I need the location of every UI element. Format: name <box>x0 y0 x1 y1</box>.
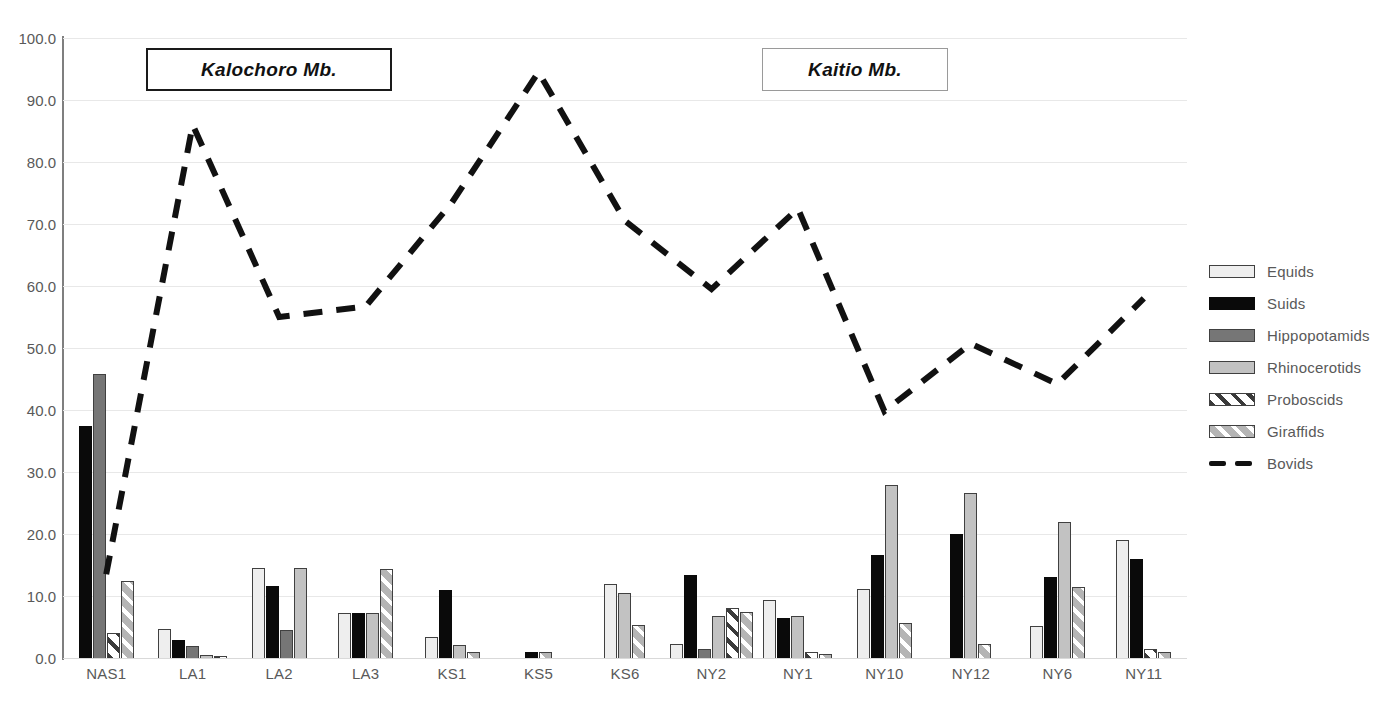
bar-giraffids[interactable] <box>539 652 552 658</box>
y-axis-tick-label: 80.0 <box>0 154 56 171</box>
y-axis-tick-label: 0.0 <box>0 650 56 667</box>
gridline <box>63 658 1187 659</box>
bar-equids[interactable] <box>425 637 438 658</box>
x-axis-tick-label-nas1: NAS1 <box>86 665 126 682</box>
bar-group <box>322 38 408 658</box>
bar-rhinocerotids[interactable] <box>712 616 725 658</box>
legend-swatch-proboscids-icon <box>1209 393 1255 406</box>
bar-equids[interactable] <box>338 613 351 658</box>
bar-suids[interactable] <box>871 555 884 658</box>
x-axis-tick-label-ks6: KS6 <box>611 665 640 682</box>
bar-proboscids[interactable] <box>107 633 120 658</box>
bar-equids[interactable] <box>1030 626 1043 658</box>
legend-item-equids[interactable]: Equids <box>1209 255 1389 287</box>
member-box-kalochoro: Kalochoro Mb. <box>146 48 392 91</box>
x-axis-tick-label-ny2: NY2 <box>697 665 727 682</box>
bar-equids[interactable] <box>604 584 617 658</box>
x-axis-tick-label-ny12: NY12 <box>952 665 990 682</box>
member-box-kaitio-label: Kaitio Mb. <box>808 59 902 81</box>
legend-label-bovids: Bovids <box>1267 455 1313 472</box>
bar-suids[interactable] <box>266 586 279 658</box>
bar-equids[interactable] <box>158 629 171 658</box>
legend-label-suids: Suids <box>1267 295 1306 312</box>
plot-area <box>63 38 1187 658</box>
bar-giraffids[interactable] <box>740 612 753 659</box>
bar-suids[interactable] <box>1044 577 1057 658</box>
y-axis-tick-label: 60.0 <box>0 278 56 295</box>
y-axis-tick-label: 10.0 <box>0 588 56 605</box>
bar-hippopotamids[interactable] <box>280 630 293 658</box>
bar-giraffids[interactable] <box>1158 652 1171 658</box>
bar-giraffids[interactable] <box>467 652 480 658</box>
legend-label-equids: Equids <box>1267 263 1314 280</box>
bar-giraffids[interactable] <box>380 569 393 658</box>
bar-equids[interactable] <box>1116 540 1129 658</box>
bar-group <box>1014 38 1100 658</box>
bar-giraffids[interactable] <box>1072 587 1085 658</box>
legend-item-suids[interactable]: Suids <box>1209 287 1389 319</box>
bar-rhinocerotids[interactable] <box>200 655 213 658</box>
bar-hippopotamids[interactable] <box>93 374 106 658</box>
bar-group <box>409 38 495 658</box>
bar-equids[interactable] <box>670 644 683 658</box>
chart-legend: EquidsSuidsHippopotamidsRhinocerotidsPro… <box>1209 255 1389 479</box>
legend-swatch-rhinocerotids-icon <box>1209 361 1255 374</box>
x-axis-tick-label-la1: LA1 <box>179 665 206 682</box>
bar-proboscids[interactable] <box>805 652 818 658</box>
bar-rhinocerotids[interactable] <box>1058 522 1071 658</box>
x-axis-tick-label-ny10: NY10 <box>865 665 903 682</box>
bar-giraffids[interactable] <box>978 644 991 658</box>
x-axis-tick-label-la3: LA3 <box>352 665 379 682</box>
legend-swatch-suids-icon <box>1209 297 1255 310</box>
bar-rhinocerotids[interactable] <box>366 613 379 658</box>
legend-label-hippopotamids: Hippopotamids <box>1267 327 1370 344</box>
bar-suids[interactable] <box>439 590 452 658</box>
bar-suids[interactable] <box>684 575 697 658</box>
bar-proboscids[interactable] <box>214 656 227 658</box>
bar-group <box>149 38 235 658</box>
bar-rhinocerotids[interactable] <box>453 645 466 658</box>
bar-group <box>841 38 927 658</box>
member-box-kaitio: Kaitio Mb. <box>762 48 948 91</box>
bar-hippopotamids[interactable] <box>698 649 711 658</box>
legend-label-giraffids: Giraffids <box>1267 423 1324 440</box>
bar-rhinocerotids[interactable] <box>885 485 898 658</box>
bar-rhinocerotids[interactable] <box>964 493 977 658</box>
legend-item-giraffids[interactable]: Giraffids <box>1209 415 1389 447</box>
bar-proboscids[interactable] <box>726 608 739 658</box>
bar-giraffids[interactable] <box>899 623 912 658</box>
bar-suids[interactable] <box>1130 559 1143 658</box>
bar-equids[interactable] <box>252 568 265 658</box>
bar-hippopotamids[interactable] <box>186 646 199 658</box>
bar-equids[interactable] <box>763 600 776 658</box>
bar-suids[interactable] <box>525 652 538 658</box>
bar-suids[interactable] <box>172 640 185 658</box>
legend-swatch-equids-icon <box>1209 265 1255 278</box>
bar-giraffids[interactable] <box>121 581 134 658</box>
bar-giraffids[interactable] <box>632 625 645 658</box>
bar-group <box>928 38 1014 658</box>
y-axis-tick-label: 90.0 <box>0 92 56 109</box>
bar-rhinocerotids[interactable] <box>294 568 307 658</box>
bar-rhinocerotids[interactable] <box>618 593 631 658</box>
bar-suids[interactable] <box>352 613 365 658</box>
bar-proboscids[interactable] <box>1144 649 1157 658</box>
x-axis-tick-label-ny1: NY1 <box>783 665 813 682</box>
legend-item-proboscids[interactable]: Proboscids <box>1209 383 1389 415</box>
bar-equids[interactable] <box>857 589 870 658</box>
legend-swatch-giraffids-icon <box>1209 425 1255 438</box>
y-axis-tick-label: 20.0 <box>0 526 56 543</box>
legend-item-hippopotamids[interactable]: Hippopotamids <box>1209 319 1389 351</box>
bar-group <box>236 38 322 658</box>
bar-suids[interactable] <box>79 426 92 659</box>
bar-rhinocerotids[interactable] <box>791 616 804 658</box>
legend-item-rhinocerotids[interactable]: Rhinocerotids <box>1209 351 1389 383</box>
bar-giraffids[interactable] <box>819 654 832 658</box>
legend-item-bovids[interactable]: Bovids <box>1209 447 1389 479</box>
y-axis-tick-label: 50.0 <box>0 340 56 357</box>
x-axis-tick-label-la2: LA2 <box>265 665 292 682</box>
bar-suids[interactable] <box>777 618 790 658</box>
bar-group <box>582 38 668 658</box>
y-axis-tick-label: 40.0 <box>0 402 56 419</box>
bar-suids[interactable] <box>950 534 963 658</box>
